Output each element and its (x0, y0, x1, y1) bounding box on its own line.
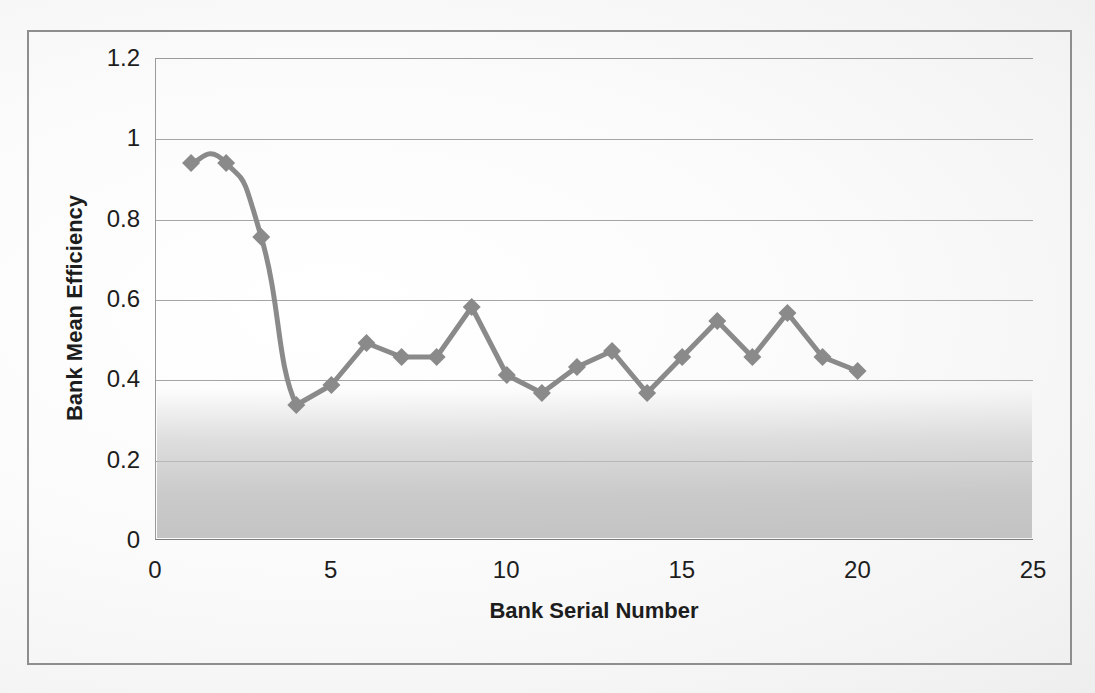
chart-page: 00.20.40.60.811.2 0510152025 Bank Serial… (0, 0, 1095, 693)
x-axis-tick-labels: 0510152025 (0, 556, 1095, 588)
x-tick-label-10: 10 (493, 556, 520, 584)
x-tick-label-25: 25 (1020, 556, 1047, 584)
x-tick-label-15: 15 (668, 556, 695, 584)
plot-area (155, 58, 1033, 540)
x-axis-title: Bank Serial Number (155, 598, 1033, 624)
data-point-marker (252, 228, 270, 246)
y-axis-tick-labels: 00.20.40.60.811.2 (85, 0, 140, 693)
y-tick-label-0: 0 (127, 526, 140, 554)
x-tick-label-0: 0 (148, 556, 161, 584)
chart-canvas: 00.20.40.60.811.2 0510152025 Bank Serial… (0, 0, 1095, 693)
y-axis-title: Bank Mean Efficiency (62, 178, 88, 438)
y-tick-label-1: 1 (127, 124, 140, 152)
y-tick-label-0.2: 0.2 (107, 446, 140, 474)
data-point-marker (849, 362, 867, 380)
x-tick-label-20: 20 (844, 556, 871, 584)
series-line-bank-mean-efficiency (156, 59, 1033, 539)
data-point-marker (182, 154, 200, 172)
x-tick-label-5: 5 (324, 556, 337, 584)
y-tick-label-1.2: 1.2 (107, 44, 140, 72)
series-path (191, 154, 858, 405)
data-point-marker (498, 366, 516, 384)
y-tick-label-0.6: 0.6 (107, 285, 140, 313)
y-tick-label-0.8: 0.8 (107, 205, 140, 233)
data-point-marker (393, 348, 411, 366)
y-tick-label-0.4: 0.4 (107, 365, 140, 393)
